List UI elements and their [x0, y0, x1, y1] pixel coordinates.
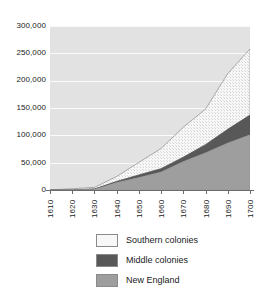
x-tick-label: 1640 [114, 200, 122, 218]
x-tick [50, 190, 51, 194]
x-tick-label: 1680 [203, 200, 211, 218]
x-tick-label: 1620 [69, 200, 77, 218]
x-tick [94, 190, 95, 194]
legend-label: Southern colonies [126, 236, 198, 245]
x-tick [228, 190, 229, 194]
x-tick [183, 190, 184, 194]
legend-swatch-middle-colonies [96, 254, 118, 267]
legend-item-southern-colonies: Southern colonies [96, 230, 256, 250]
x-tick [206, 190, 207, 194]
x-tick [161, 190, 162, 194]
x-tick [72, 190, 73, 194]
x-tick [117, 190, 118, 194]
x-tick-label: 1630 [91, 200, 99, 218]
legend-swatch-southern-colonies [96, 234, 118, 247]
x-tick [139, 190, 140, 194]
legend-label: Middle colonies [126, 256, 188, 265]
legend-swatch-new-england [96, 274, 118, 287]
x-tick-label: 1650 [136, 200, 144, 218]
x-tick-label: 1660 [158, 200, 166, 218]
stacked-area-chart-figure: 300,000 250,000 200,000 150,000 100,000 … [0, 0, 266, 293]
x-tick-label: 1670 [180, 200, 188, 218]
x-tick-label: 1610 [47, 200, 55, 218]
x-tick [250, 190, 251, 194]
x-tick-label: 1690 [225, 200, 233, 218]
legend-item-middle-colonies: Middle colonies [96, 250, 256, 270]
x-tick-label: 1700 [247, 200, 255, 218]
legend-label: New England [126, 276, 180, 285]
legend-item-new-england: New England [96, 270, 256, 290]
chart-legend: Southern colonies Middle colonies New En… [96, 230, 256, 290]
